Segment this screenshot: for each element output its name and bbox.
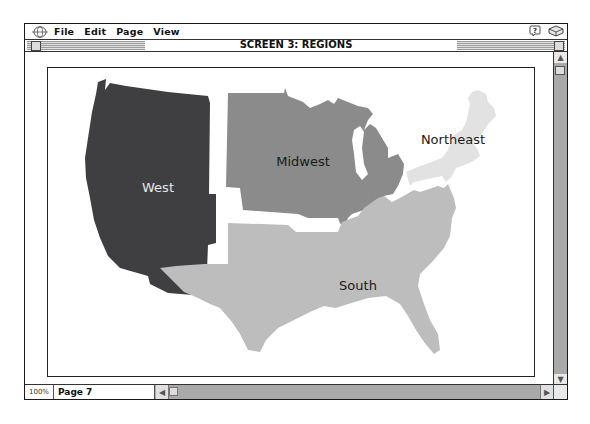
zoom-level[interactable]: 100% — [25, 385, 54, 399]
menu-bar: File Edit Page View ? — [25, 24, 567, 40]
label-west: West — [142, 180, 174, 195]
notebook-icon[interactable] — [547, 25, 565, 37]
label-south: South — [339, 278, 377, 293]
menu-file[interactable]: File — [54, 26, 74, 37]
vertical-scroll-thumb[interactable] — [555, 66, 565, 75]
page-content: West Midwest Northeast South — [25, 52, 554, 385]
title-stripes-right — [457, 41, 565, 50]
scroll-right-arrow-icon[interactable]: ▶ — [540, 385, 553, 399]
zoom-box[interactable] — [554, 41, 564, 51]
label-midwest: Midwest — [276, 154, 330, 169]
map-frame: West Midwest Northeast South — [47, 67, 535, 377]
title-bar[interactable]: SCREEN 3: REGIONS — [25, 40, 567, 52]
menu-page[interactable]: Page — [116, 26, 143, 37]
page-number[interactable]: Page 7 — [54, 385, 155, 399]
menu-edit[interactable]: Edit — [84, 26, 106, 37]
menu-view[interactable]: View — [153, 26, 179, 37]
svg-text:?: ? — [533, 27, 537, 35]
us-regions-map: West Midwest Northeast South — [48, 68, 536, 378]
scroll-up-arrow-icon[interactable]: ▲ — [554, 52, 567, 63]
horizontal-scroll-thumb[interactable] — [169, 387, 178, 396]
globe-icon[interactable] — [32, 26, 48, 38]
label-northeast: Northeast — [421, 132, 485, 147]
vertical-scrollbar[interactable]: ▲ ▼ — [553, 52, 567, 385]
document-window: File Edit Page View ? SCREEN 3: REGIONS — [24, 23, 568, 400]
resize-grow-box[interactable] — [553, 385, 567, 399]
scroll-left-arrow-icon[interactable]: ◀ — [156, 385, 169, 399]
menubar-right-icons: ? — [529, 25, 565, 37]
help-balloon-icon[interactable]: ? — [529, 25, 541, 37]
status-bar: 100% Page 7 ◀ ▶ — [25, 384, 567, 399]
